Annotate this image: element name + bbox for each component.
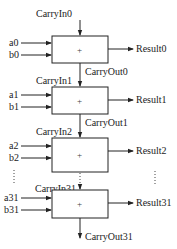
input-b-label: b0 — [9, 49, 19, 60]
input-b-label: b31 — [4, 204, 19, 215]
result-label: Result0 — [136, 43, 167, 54]
input-a-label: a1 — [9, 89, 18, 100]
input-a-label: a31 — [4, 192, 18, 203]
result-label: Result31 — [136, 197, 172, 208]
adder-stage-0: CarryIn0 a0 b0 + Result0 CarryOut0 — [9, 8, 167, 86]
carry-out-label: CarryOut1 — [85, 117, 128, 128]
carry-in-label: CarryIn0 — [36, 8, 72, 19]
ripple-carry-adder-diagram: CarryIn0 a0 b0 + Result0 CarryOut0 Carry… — [0, 0, 177, 249]
adder-stage-1: CarryIn1 a1 b1 + Result1 CarryOut1 — [9, 75, 167, 137]
input-a-label: a0 — [9, 37, 18, 48]
adder-stage-2: CarryIn2 a2 b2 + Result2 — [9, 126, 167, 172]
carry-in-label: CarryIn2 — [36, 126, 72, 137]
carry-out-label: CarryOut31 — [85, 231, 133, 242]
plus-sign: + — [77, 96, 82, 106]
carry-in-label: CarryIn1 — [36, 75, 72, 86]
plus-sign: + — [77, 199, 82, 209]
plus-sign: + — [77, 45, 82, 55]
input-a-label: a2 — [9, 140, 18, 151]
result-label: Result1 — [136, 94, 167, 105]
result-label: Result2 — [136, 145, 167, 156]
carry-out-label: CarryOut0 — [85, 66, 128, 77]
input-b-label: b1 — [9, 101, 19, 112]
input-b-label: b2 — [9, 152, 19, 163]
adder-stage-31: CarryIn31 a31 b31 + Result31 CarryOut31 — [4, 183, 172, 242]
plus-sign: + — [77, 150, 82, 160]
